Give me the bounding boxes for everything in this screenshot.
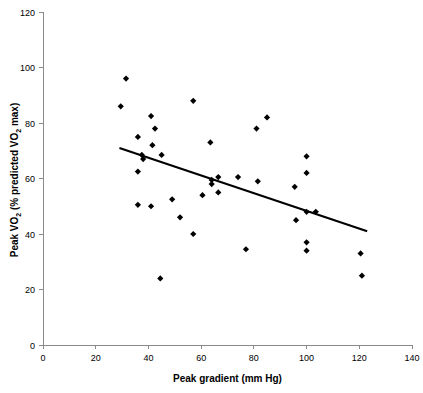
data-point <box>177 214 183 220</box>
data-point <box>293 217 299 223</box>
data-point <box>292 184 298 190</box>
data-point <box>135 134 141 140</box>
data-point <box>209 181 215 187</box>
data-point <box>215 189 221 195</box>
data-point <box>148 203 154 209</box>
data-point <box>123 76 129 82</box>
x-axis-tick-label: 120 <box>352 353 367 363</box>
data-point <box>255 178 261 184</box>
data-point <box>215 174 221 180</box>
x-axis-tick-label: 60 <box>196 353 206 363</box>
y-axis-title-part-b: (% predicted VO <box>9 133 20 213</box>
data-point <box>253 125 259 131</box>
x-axis-tick-label: 140 <box>404 353 419 363</box>
x-axis-tick-label: 20 <box>91 353 101 363</box>
data-point-group <box>118 76 365 282</box>
y-axis-title-part-a: Peak VO <box>9 216 20 257</box>
svg-text:Peak VO2 (% predicted VO2 max): Peak VO2 (% predicted VO2 max) <box>9 103 22 258</box>
y-axis-tick-label: 40 <box>25 230 35 240</box>
data-point <box>303 248 309 254</box>
data-point <box>303 239 309 245</box>
y-axis-tick-label: 80 <box>25 119 35 129</box>
data-point <box>169 196 175 202</box>
data-point <box>199 192 205 198</box>
data-point <box>243 246 249 252</box>
data-point <box>157 275 163 281</box>
data-point <box>358 250 364 256</box>
regression-trend-line <box>119 148 367 231</box>
y-axis-tick-label: 0 <box>30 341 35 351</box>
data-point <box>264 114 270 120</box>
data-point <box>135 202 141 208</box>
x-axis-tick-group: 020406080100120140 <box>40 345 419 363</box>
y-axis-title: Peak VO2 (% predicted VO2 max) <box>9 103 22 258</box>
y-axis-tick-label: 100 <box>20 63 35 73</box>
data-point <box>148 113 154 119</box>
scatter-plot-figure: 020406080100120 020406080100120140 Peak … <box>0 0 423 393</box>
x-axis-tick-label: 40 <box>143 353 153 363</box>
data-point <box>118 103 124 109</box>
data-point <box>359 273 365 279</box>
y-axis-tick-label: 60 <box>25 174 35 184</box>
y-axis-title-part-c: max) <box>9 103 20 129</box>
data-point <box>303 170 309 176</box>
x-axis-tick-label: 100 <box>299 353 314 363</box>
data-point <box>152 125 158 131</box>
chart-canvas: 020406080100120 020406080100120140 Peak … <box>0 0 423 393</box>
data-point <box>190 231 196 237</box>
data-point <box>190 98 196 104</box>
data-point <box>303 153 309 159</box>
y-axis-tick-label: 20 <box>25 285 35 295</box>
data-point <box>149 142 155 148</box>
data-point <box>159 152 165 158</box>
x-axis-tick-label: 80 <box>249 353 259 363</box>
x-axis-tick-label: 0 <box>40 353 45 363</box>
data-point <box>135 168 141 174</box>
data-point <box>207 139 213 145</box>
y-axis-tick-group: 020406080100120 <box>20 8 43 351</box>
x-axis-title: Peak gradient (mm Hg) <box>173 373 282 384</box>
data-point <box>235 174 241 180</box>
y-axis-tick-label: 120 <box>20 8 35 18</box>
